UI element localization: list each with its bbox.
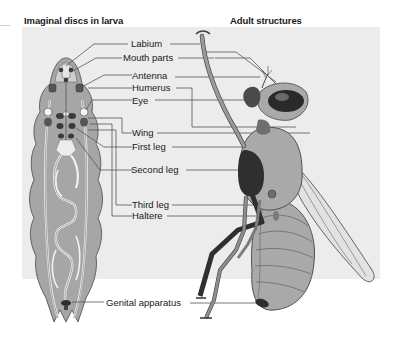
larva-illustration xyxy=(30,58,103,322)
label-haltere: Haltere xyxy=(132,210,163,221)
label-first-leg: First leg xyxy=(132,141,166,152)
label-antenna: Antenna xyxy=(132,70,167,81)
label-wing: Wing xyxy=(132,127,154,138)
label-third-leg: Third leg xyxy=(132,199,169,210)
label-mouth-parts: Mouth parts xyxy=(123,52,173,63)
label-humerus: Humerus xyxy=(132,82,171,93)
label-eye: Eye xyxy=(132,95,148,106)
adult-fly-illustration xyxy=(196,31,374,318)
label-genital-apparatus: Genital apparatus xyxy=(106,297,181,308)
fly-development-illustration xyxy=(0,0,400,352)
label-labium: Labium xyxy=(131,38,162,49)
label-second-leg: Second leg xyxy=(131,164,179,175)
